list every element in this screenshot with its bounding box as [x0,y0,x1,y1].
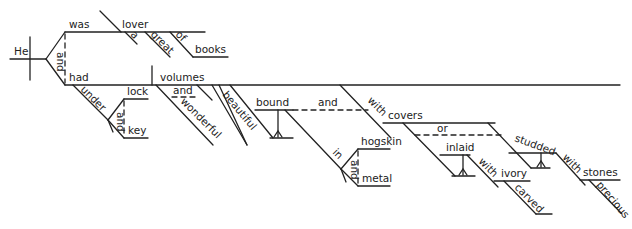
preposition-in-line [285,110,341,169]
preposition-of: of [174,28,190,44]
conjunction-and-hogskin: and [349,160,361,180]
object-ivory: ivory [501,167,527,179]
object-books: books [195,43,226,55]
predicate-nominative-divider [100,11,121,32]
modifier-precious: precious [594,179,632,221]
object-hogskin: hogskin [361,135,402,147]
object-covers: covers [388,109,423,121]
preposition-with-ivory: with [477,155,501,179]
direct-object-volumes: volumes [160,71,204,83]
verb-was: was [69,18,90,30]
sentence-diagram: He and was lover a great of books had vo… [0,0,632,229]
object-metal: metal [362,172,392,184]
object-stones: stones [583,166,618,178]
preposition-with-stones: with [561,151,585,175]
participle-bound: bound [256,96,289,108]
preposition-in: in [331,146,346,161]
participle-conjunction-and: and [318,96,338,108]
object-lock: lock [127,85,149,97]
verb-had: had [69,71,89,83]
predicate-conjunction: and [55,52,67,72]
adjective-conjunction-and: and [173,84,193,96]
conjunction-or: or [437,122,448,134]
and-stem [197,85,212,100]
preposition-under: under [79,83,110,114]
participle-inlaid: inlaid [446,141,475,153]
subject-word: He [14,45,28,57]
modifier-carved: carved [513,181,547,215]
object-key: key [128,124,146,136]
conjunction-and-lockkey: and [115,112,127,132]
